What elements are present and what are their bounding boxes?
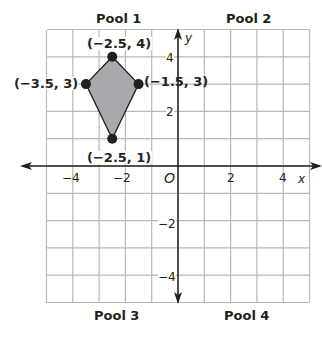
coordinate-plane-diagram: Pool 1 Pool 2 Pool 3 Pool 4 (−2.5, 4) (−… xyxy=(0,0,322,337)
pool-4-label: Pool 4 xyxy=(224,309,269,322)
y-axis-label: y xyxy=(185,32,192,44)
x-tick-neg4: −4 xyxy=(62,172,80,184)
x-tick-neg2: −2 xyxy=(113,172,131,184)
pool-3-label: Pool 3 xyxy=(94,309,139,322)
origin-label: O xyxy=(164,171,175,185)
x-tick-4: 4 xyxy=(279,172,287,184)
vertex-label-right: (−1.5, 3) xyxy=(144,75,208,88)
coordinate-grid xyxy=(0,0,322,337)
vertex-label-top: (−2.5, 4) xyxy=(86,37,152,50)
x-tick-2: 2 xyxy=(227,172,235,184)
y-tick-neg2: −2 xyxy=(158,218,176,230)
vertex-label-bottom: (−2.5, 1) xyxy=(86,151,152,164)
kite-shape xyxy=(86,57,139,139)
vertex-point xyxy=(107,134,117,144)
y-tick-4: 4 xyxy=(166,52,174,64)
vertex-point xyxy=(107,52,117,62)
y-tick-2: 2 xyxy=(166,106,174,118)
x-axis-label: x xyxy=(298,173,305,185)
vertex-point xyxy=(134,79,144,89)
y-tick-neg4: −4 xyxy=(158,271,176,283)
pool-1-label: Pool 1 xyxy=(96,12,141,25)
vertex-label-left: (−3.5, 3) xyxy=(14,77,78,90)
pool-2-label: Pool 2 xyxy=(226,12,271,25)
vertex-point xyxy=(81,79,91,89)
